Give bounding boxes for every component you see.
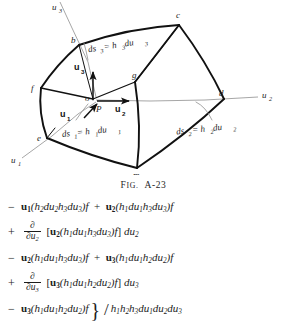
edge-m-g [135,82,139,168]
arc-label-ds3-sub3: 3 [143,40,148,48]
vertex-label-g: g [132,70,137,80]
unit-vector-u3-letter: u [74,62,80,72]
figure-caption-rest: IG. [127,181,139,190]
arc-label-ds2-sub3: 2 [233,125,237,132]
equation-line-3-body: u2(h1du1h3du3)f + u3(h1du1h2du2)f [21,251,173,265]
arc-label-ds2: ds 2 = h 2 du 2 [176,120,237,138]
equation-line-1: − u1(h2du2h3du3)f + u2(h1du1h3du3)f [8,196,287,218]
arc-label-ds3: ds 3 = h 3 du 3 [87,35,148,56]
volume-element-svg: b c f g d e m o P u 3 u 2 u 1 u 3 u 2 [0,0,287,175]
arc-label-ds1-sub3: 1 [118,128,122,135]
axis-label-u1-letter: u [11,155,16,165]
equation-line-4: + ∂ ∂u3 [u3(h1du1h2du2)f] du3 [8,272,287,294]
unit-vector-u1-letter: u [60,109,66,119]
vertex-label-o: o [85,93,90,103]
edge-f-e [40,88,47,138]
arc-label-ds3-d: ds [87,43,97,54]
partial-derivative-u3: ∂ ∂u3 [24,272,41,293]
edge-e-m [47,138,137,168]
partial-symbol-num-4: ∂ [28,272,37,282]
axis-label-u3-sub: 3 [58,7,62,14]
operator-minus-1: − [8,200,21,215]
operator-minus-5: − [8,302,21,317]
unit-vector-label-u2: u 2 [115,104,126,117]
figure-caption-number: A-23 [144,180,166,190]
equation-line-3: − u2(h1du1h3du3)f + u3(h1du1h2du2)f [8,247,287,269]
vertex-label-d: d [219,88,224,98]
axis-label-u1-sub: 1 [18,160,21,167]
edge-g-o [93,82,135,99]
vertex-label-f: f [31,83,35,93]
equation-line-1-body: u1(h2du2h3du3)f + u2(h1du1h3du3)f [21,200,173,214]
equation-line-5: − u3(h1du1h2du2)f } / h1h2h3du1du2du3 [8,298,287,320]
partial-symbol-num-2: ∂ [28,221,37,231]
vertex-label-c: c [176,10,180,20]
figure-diagram: b c f g d e m o P u 3 u 2 u 1 u 3 u 2 [0,0,287,175]
equation-line-5-body: u3(h1du1h2du2)f [21,302,89,316]
equation-line-5-denominator: h1h2h3du1du2du3 [111,302,182,316]
edge-d-c [179,25,224,99]
arc-label-ds2-du: du [212,122,222,133]
vertex-label-b: b [71,35,76,45]
arc-label-ds1-d: ds [61,128,70,139]
vertex-label-m: m [133,170,140,175]
vertex-label-e: e [37,133,41,143]
axis-label-u2-letter: u [262,90,267,100]
operator-plus-2: + [8,225,21,240]
axis-label-u2-sub: 2 [269,95,272,102]
arc-label-ds3-du: du [124,37,135,48]
unit-vector-u3-sub: 3 [81,68,85,75]
unit-vector-u2-letter: u [115,104,121,114]
axis-label-u3-letter: u [52,2,57,12]
figure-caption: FIG. A-23 [0,180,287,190]
division-slash: / [104,300,109,320]
operator-plus-4: + [8,276,21,291]
arc-label-ds2-eq: = h [192,124,206,135]
axis-label-u2: u 2 [262,90,272,102]
unit-vector-u2-sub: 2 [122,110,126,117]
vertex-label-P: P [95,104,102,114]
ds1-arc [76,104,88,120]
equation-line-2: + ∂ ∂u2 [u2(h1du1h3du3)f] du2 [8,221,287,243]
unit-vector-label-u1: u 1 [60,109,71,122]
edge-c-g-inner [135,25,179,82]
equation-line-4-body: [u3(h1du1h2du2)f] du3 [44,276,139,290]
equation-line-2-body: [u2(h1du1h3du3)f] du2 [44,225,139,239]
arc-label-ds3-eq: = h [103,40,118,52]
arc-label-ds1-du: du [97,124,107,135]
arc-label-ds1: ds 1 = h 1 du 1 [61,123,121,141]
partial-derivative-u2: ∂ ∂u2 [24,221,41,242]
operator-minus-3: − [8,251,21,266]
equation-block: − u1(h2du2h3du3)f + u2(h1du1h3du3)f + ∂ … [0,196,287,330]
arc-label-ds2-d: ds [176,126,185,137]
arc-label-ds1-eq: = h [76,126,90,137]
unit-vector-u1-sub: 1 [67,115,71,122]
axis-label-u1: u 1 [11,155,21,167]
partial-denominator-4: ∂u3 [24,282,41,293]
partial-denominator-2: ∂u2 [24,231,41,242]
